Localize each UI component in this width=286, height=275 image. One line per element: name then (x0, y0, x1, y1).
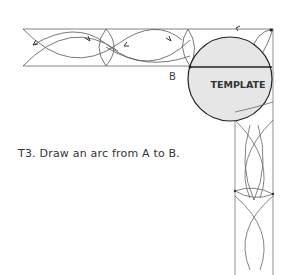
vertical-arcs (234, 102, 274, 270)
template-circle (188, 29, 273, 122)
point-b-label: B (169, 71, 176, 82)
instruction-caption: T3. Draw an arc from A to B. (18, 147, 180, 160)
template-label: TEMPLATE (204, 79, 272, 90)
arc-pattern-diagram (0, 0, 286, 275)
